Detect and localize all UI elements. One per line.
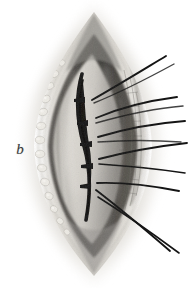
figure-panel: b xyxy=(0,0,188,288)
panel-label-b: b xyxy=(9,138,31,160)
